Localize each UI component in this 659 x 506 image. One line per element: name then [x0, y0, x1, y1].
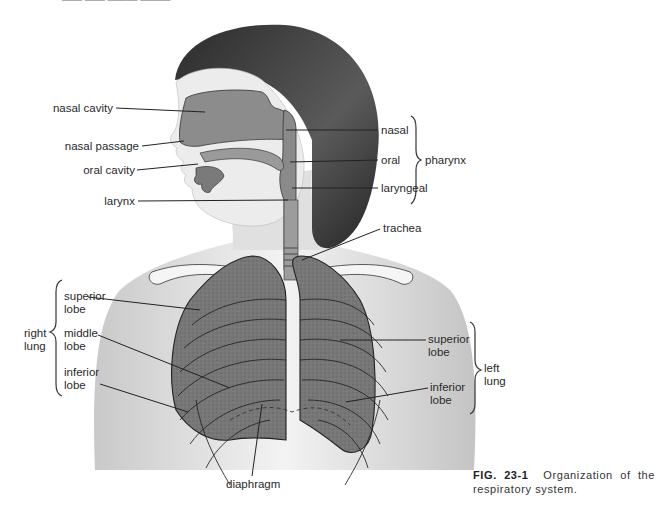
label-oral-cavity: oral cavity — [83, 164, 135, 177]
label-nasal-passage: nasal passage — [65, 140, 139, 153]
label-nasal-cavity: nasal cavity — [53, 102, 113, 115]
label-pharynx-oral: oral — [381, 154, 400, 167]
right-lung-brace — [50, 280, 62, 396]
label-right-middle-lobe: middle lobe — [64, 327, 98, 353]
label-left-inferior-lobe: inferior lobe — [430, 381, 465, 407]
page-header-fragment: —— —— ——— ——— — [62, 0, 170, 5]
label-larynx: larynx — [104, 195, 135, 208]
label-pharynx: pharynx — [425, 154, 466, 167]
label-right-superior-lobe: superior lobe — [64, 290, 106, 316]
figure-number: FIG. 23-1 — [473, 469, 529, 481]
label-right-inferior-lobe: inferior lobe — [64, 366, 99, 392]
respiratory-system-figure: —— —— ——— ——— nasal cavity nasal passage… — [0, 0, 659, 506]
figure-caption: FIG. 23-1 Organization of the respirator… — [473, 468, 655, 496]
label-left-superior-lobe: superior lobe — [428, 333, 470, 359]
label-diaphragm: diaphragm — [226, 478, 280, 491]
label-pharynx-nasal: nasal — [381, 124, 409, 137]
anatomy-illustration — [0, 0, 659, 506]
label-trachea: trachea — [383, 222, 421, 235]
label-right-lung: right lung — [24, 327, 46, 353]
label-pharynx-laryngeal: laryngeal — [381, 182, 428, 195]
label-left-lung: left lung — [484, 362, 506, 388]
